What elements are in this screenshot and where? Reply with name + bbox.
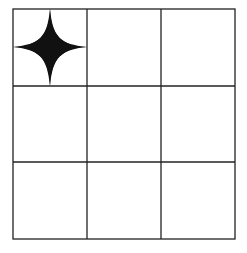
grid-diagram bbox=[0, 0, 247, 253]
star-shape-fill bbox=[13, 9, 87, 86]
